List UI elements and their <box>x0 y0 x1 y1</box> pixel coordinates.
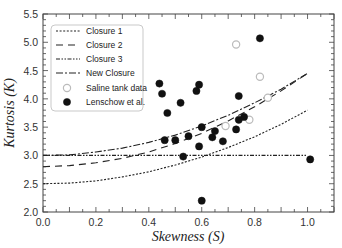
x-tick-label: 1.0 <box>300 216 315 228</box>
lenschow-point <box>161 137 168 144</box>
saline-tank-point <box>222 122 229 129</box>
x-axis-label: Skewness (S) <box>152 229 225 245</box>
saline-tank-point <box>256 73 263 80</box>
lenschow-point <box>233 126 240 133</box>
legend-label: Closure 3 <box>86 54 123 64</box>
saline-tank-point <box>233 41 240 48</box>
legend-label: Lenschow et al. <box>86 97 145 107</box>
lenschow-point <box>180 153 187 160</box>
y-tick-label: 3.5 <box>23 121 38 133</box>
y-tick-label: 5.5 <box>23 8 38 20</box>
lenschow-point <box>209 134 216 141</box>
y-tick-label: 5.0 <box>23 36 38 48</box>
lenschow-point <box>172 137 179 144</box>
lenschow-point <box>195 143 202 150</box>
legend-label: Closure 1 <box>86 26 123 36</box>
x-tick-label: 0.2 <box>89 216 104 228</box>
saline-tank-point <box>264 94 271 101</box>
legend-label: New Closure <box>86 68 135 78</box>
lenschow-point <box>256 35 263 42</box>
data-points <box>156 35 314 205</box>
y-tick-label: 4.0 <box>23 93 38 105</box>
closure-1-line <box>43 110 308 184</box>
y-axis-label: Kurtosis (K) <box>2 78 18 149</box>
x-tick-label: 0.4 <box>142 216 157 228</box>
lenschow-point <box>198 124 205 131</box>
lenschow-point <box>185 133 192 140</box>
lenschow-point <box>177 99 184 106</box>
legend-label: Saline tank data <box>86 83 147 93</box>
lenschow-point <box>198 197 205 204</box>
y-tick-label: 2.5 <box>23 178 38 190</box>
y-tick-label: 4.5 <box>23 65 38 77</box>
lenschow-point <box>156 80 163 87</box>
y-tick-label: 3.0 <box>23 149 38 161</box>
legend-marker <box>63 98 70 105</box>
y-tick-label: 2.0 <box>23 206 38 218</box>
lenschow-point <box>240 113 247 120</box>
lenschow-point <box>219 138 226 145</box>
x-tick-label: 0.8 <box>247 216 262 228</box>
x-tick-label: 0.6 <box>194 216 209 228</box>
lenschow-point <box>164 109 171 116</box>
lenschow-point <box>158 90 165 97</box>
legend: Closure 1Closure 2Closure 3New ClosureSa… <box>51 25 147 111</box>
kurtosis-skewness-chart: 0.00.20.40.60.81.02.02.53.03.54.04.55.05… <box>0 0 342 248</box>
lenschow-point <box>193 87 200 94</box>
legend-marker <box>63 84 70 91</box>
lenschow-point <box>235 92 242 99</box>
lenschow-point <box>307 156 314 163</box>
legend-label: Closure 2 <box>86 40 123 50</box>
